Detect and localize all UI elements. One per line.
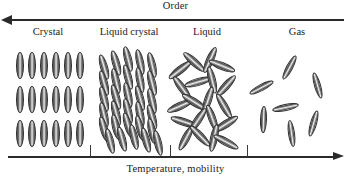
molecule-ellipse: [64, 120, 72, 147]
axis-tick: [90, 145, 91, 157]
molecule-group-crystal: [12, 44, 88, 150]
phases-of-matter-diagram: Order Crystal Liquid crystal Liquid Gas …: [0, 0, 351, 189]
molecule-ellipse: [76, 52, 84, 79]
molecule-ellipse: [16, 52, 24, 79]
molecule-ellipse: [286, 120, 297, 148]
axis-tick: [170, 145, 171, 157]
molecule-ellipse: [272, 101, 300, 113]
molecule-ellipse: [260, 106, 268, 133]
molecule-ellipse: [76, 120, 84, 147]
molecule-ellipse: [280, 54, 299, 81]
molecule-ellipse: [40, 52, 48, 79]
molecule-ellipse: [248, 78, 275, 97]
molecule-ellipse: [306, 110, 320, 138]
temperature-axis-line: [8, 156, 336, 158]
molecule-ellipse: [310, 72, 324, 100]
arrow-right-icon: [333, 152, 344, 160]
order-axis-label: Order: [0, 0, 351, 11]
molecule-ellipse: [16, 120, 24, 147]
arrow-left-icon: [1, 15, 12, 25]
molecule-ellipse: [64, 52, 72, 79]
temperature-axis-label: Temperature, mobility: [0, 163, 351, 174]
axis-tick: [247, 145, 248, 157]
molecule-group-gas: [258, 44, 330, 150]
molecule-ellipse: [76, 86, 84, 113]
phase-label-liquid: Liquid: [193, 26, 221, 37]
order-axis-line: [8, 19, 344, 21]
molecule-ellipse: [28, 86, 36, 113]
phase-label-crystal: Crystal: [33, 26, 63, 37]
molecule-ellipse: [151, 129, 165, 156]
phase-label-gas: Gas: [289, 26, 305, 37]
molecule-ellipse: [28, 120, 36, 147]
molecule-group-liquid-crystal: [98, 44, 162, 150]
phase-label-liquid-crystal: Liquid crystal: [100, 26, 159, 37]
molecule-ellipse: [52, 86, 60, 113]
molecule-ellipse: [16, 86, 24, 113]
molecule-ellipse: [52, 52, 60, 79]
molecule-ellipse: [52, 120, 60, 147]
molecule-ellipse: [64, 86, 72, 113]
molecule-group-liquid: [176, 44, 236, 150]
molecule-ellipse: [28, 52, 36, 79]
molecule-ellipse: [40, 120, 48, 147]
molecule-ellipse: [40, 86, 48, 113]
